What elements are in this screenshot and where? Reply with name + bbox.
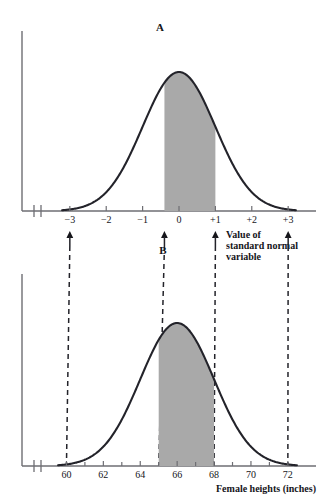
panel-b-tick-label: 70 — [246, 469, 256, 480]
panel-a-tick-label: +3 — [283, 214, 294, 225]
panel-b-tick-label: 66 — [172, 469, 182, 480]
panel-b-tick-label: 68 — [209, 469, 219, 480]
panel-a-tick-labels: −3−2−10+1+2+3 — [65, 214, 294, 225]
panel-a: A −3−2−10+1+2+3 Value of standard normal… — [22, 21, 316, 262]
panel-a-tick-label: −3 — [65, 214, 76, 225]
panel-a-tick-label: −2 — [101, 214, 112, 225]
panel-b-axis-caption: Female heights (inches) — [216, 483, 316, 495]
panel-b-tick-label: 64 — [135, 469, 145, 480]
axis-caption-line-1: Value of — [226, 229, 262, 240]
panel-b-shaded-region — [159, 323, 214, 466]
panel-a-tick-label: −1 — [137, 214, 148, 225]
panel-b: 60626466687072 Female heights (inches) — [22, 274, 316, 495]
connector-dashed-line — [66, 246, 69, 466]
connector-arrowhead — [66, 231, 73, 238]
panel-b-tick-label: 62 — [98, 469, 108, 480]
connector-arrowhead — [212, 231, 219, 238]
connector — [285, 231, 292, 466]
panel-a-tick-label: +2 — [246, 214, 257, 225]
panel-a-tick-label: 0 — [177, 214, 182, 225]
panel-a-shaded-region — [164, 72, 215, 211]
connector — [66, 231, 73, 466]
panel-b-tick-label: 60 — [61, 469, 71, 480]
panel-b-tick-labels: 60626466687072 — [61, 469, 292, 480]
panel-a-tick-label: +1 — [210, 214, 221, 225]
connector-dashed-line — [214, 246, 215, 466]
panel-b-tick-label: 72 — [283, 469, 293, 480]
axis-caption-line-2: standard normal — [226, 240, 298, 251]
panel-b-tick-marks — [66, 461, 287, 466]
axis-caption-line-3: variable — [226, 251, 262, 262]
connector-arrowhead — [285, 231, 292, 238]
panel-a-tick-marks — [70, 206, 288, 211]
connector-arrowhead — [161, 231, 168, 238]
panel-b-label: B — [159, 244, 167, 256]
panel-a-label: A — [156, 21, 164, 33]
normal-distribution-figure: A −3−2−10+1+2+3 Value of standard normal… — [0, 0, 326, 501]
